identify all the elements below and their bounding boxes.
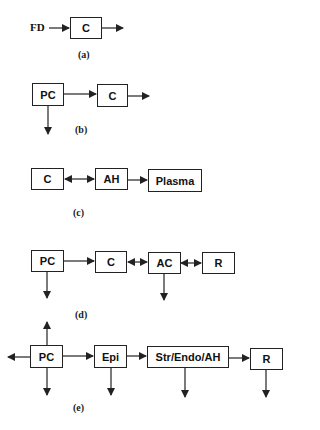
node-c-plasma: Plasma <box>148 169 202 192</box>
node-d-ac: AC <box>148 252 181 274</box>
fd-label: FD <box>30 21 45 33</box>
panel-label-d: (d) <box>75 309 87 320</box>
panel-label-a: (a) <box>78 49 90 60</box>
node-b-c: C <box>97 84 128 107</box>
panel-label-e: (e) <box>73 402 84 413</box>
node-e-pc: PC <box>30 345 63 368</box>
node-d-r: R <box>202 252 235 274</box>
node-a-c: C <box>70 17 102 39</box>
panel-label-b: (b) <box>75 124 87 135</box>
node-e-epi: Epi <box>94 345 127 368</box>
node-d-c: C <box>95 251 127 273</box>
node-e-r: R <box>250 348 283 370</box>
panel-label-c: (c) <box>73 207 84 218</box>
node-d-pc: PC <box>31 250 64 272</box>
node-e-str-endo-ah: Str/Endo/AH <box>147 346 229 368</box>
node-c-c: C <box>31 168 64 190</box>
node-b-pc: PC <box>32 83 64 106</box>
node-c-ah: AH <box>95 168 128 190</box>
